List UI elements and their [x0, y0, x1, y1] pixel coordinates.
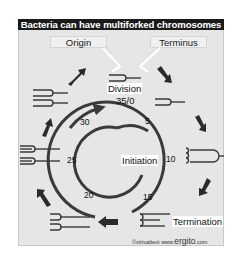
initiation-label: Initiation	[121, 155, 158, 166]
fork-left-multi	[20, 146, 60, 164]
fork-upper-right	[155, 99, 185, 105]
fork-top-center	[109, 75, 141, 81]
arrow-ne	[68, 68, 86, 86]
division-label: Division	[107, 83, 142, 94]
fork-lower-left	[50, 214, 90, 230]
time-20: 20	[84, 191, 93, 200]
arrow-n	[42, 118, 53, 137]
arrow-se-1	[157, 66, 172, 83]
arrow-sw	[199, 178, 211, 196]
time-30: 30	[80, 118, 89, 127]
arrow-se-2	[195, 115, 206, 132]
arrow-w	[98, 216, 118, 228]
callout-pointers	[103, 48, 160, 72]
copyright: ©virtualtext www.ergito.com	[132, 236, 207, 246]
fork-right-multi	[186, 148, 224, 163]
time-10: 10	[166, 155, 175, 164]
fork-upper-left	[33, 90, 68, 106]
termination-label: Termination	[172, 216, 223, 227]
arrow-nw	[37, 189, 51, 207]
time-15: 15	[143, 193, 152, 202]
division-time-label: 35/0	[116, 96, 135, 106]
time-5: 5	[145, 117, 150, 126]
fork-lower-right	[140, 214, 170, 226]
time-25: 25	[67, 156, 76, 165]
